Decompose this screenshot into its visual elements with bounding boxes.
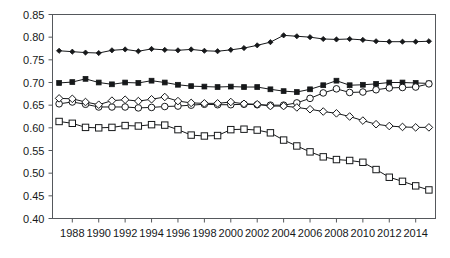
data-point-marker [360,159,366,165]
data-point-marker [281,89,286,94]
data-point-marker [123,80,128,85]
data-point-marker [56,118,62,124]
data-point-marker [123,47,128,52]
y-axis-tick-marks [49,15,53,219]
data-point-marker [307,95,314,102]
data-point-marker [162,80,167,85]
data-point-marker [399,178,405,184]
data-point-marker [386,85,393,92]
data-point-marker [307,35,312,40]
data-point-marker [346,89,353,96]
data-point-marker [347,36,352,41]
data-point-marker [228,126,234,132]
data-point-marker [57,48,62,53]
y-tick-label: 0.80 [23,31,44,43]
data-point-marker [412,84,419,91]
data-point-marker [346,113,354,121]
data-point-marker [280,137,286,143]
data-point-marker [161,93,169,101]
data-point-marker [135,97,143,105]
data-point-marker [359,117,367,125]
data-point-marker [307,149,313,155]
series-open-square [56,118,432,193]
y-tick-label: 0.50 [23,167,44,179]
data-point-marker [399,84,406,91]
data-point-marker [319,108,327,116]
data-point-marker [346,157,352,163]
y-tick-label: 0.45 [23,190,44,202]
data-point-marker [148,104,155,111]
y-tick-label: 0.85 [23,9,44,21]
data-point-marker [149,46,154,51]
data-point-marker [83,50,88,55]
x-tick-label: 2000 [219,227,243,239]
data-point-marker [374,81,379,86]
x-tick-label: 1988 [60,227,84,239]
x-tick-label: 1994 [139,227,163,239]
data-point-marker [176,82,181,87]
data-point-marker [333,110,341,118]
y-tick-label: 0.40 [23,213,44,225]
data-point-marker [108,97,116,105]
x-tick-label: 1996 [166,227,190,239]
data-point-marker [281,33,286,38]
data-point-marker [373,39,378,44]
data-point-marker [136,49,141,54]
data-point-marker [175,48,180,53]
x-tick-label: 2008 [324,227,348,239]
data-point-marker [333,86,340,93]
data-point-marker [321,83,326,88]
x-tick-label: 2004 [271,227,295,239]
data-point-marker [110,82,115,87]
data-point-marker [360,37,365,42]
data-point-marker [255,43,260,48]
data-point-marker [426,187,432,193]
data-point-marker [201,133,207,139]
data-point-marker [242,85,247,90]
data-point-marker [122,122,128,128]
y-tick-label: 0.60 [23,122,44,134]
data-point-marker [360,82,365,87]
data-point-marker [255,85,260,90]
data-point-marker [189,84,194,89]
data-point-marker [268,40,273,45]
line-chart: 0.400.450.500.550.600.650.700.750.800.85… [0,0,450,258]
data-point-marker [360,89,367,96]
data-point-marker [149,78,154,83]
x-tick-label: 2010 [351,227,375,239]
x-axis-tick-labels: 1988199019921994199619982000200220042006… [60,227,428,239]
data-point-marker [254,127,260,133]
data-point-marker [215,49,220,54]
x-tick-label: 1992 [113,227,137,239]
data-point-marker [55,95,63,103]
y-tick-label: 0.55 [23,145,44,157]
y-tick-label: 0.75 [23,54,44,66]
data-point-marker [96,125,102,131]
data-point-marker [241,45,246,50]
data-point-marker [70,80,75,85]
x-tick-label: 1990 [86,227,110,239]
data-point-marker [373,166,379,172]
x-tick-label: 1998 [192,227,216,239]
x-tick-label: 2002 [245,227,269,239]
data-point-marker [188,132,194,138]
y-tick-label: 0.65 [23,99,44,111]
x-tick-label: 2006 [298,227,322,239]
data-point-marker [334,78,339,83]
data-point-marker [426,81,433,88]
data-point-marker [241,126,247,132]
data-point-marker [320,90,327,97]
data-point-marker [109,48,114,53]
data-point-marker [189,47,194,52]
data-point-marker [148,121,154,127]
data-point-marker [306,105,314,113]
data-point-marker [96,50,101,55]
data-point-marker [69,120,75,126]
data-point-marker [294,90,299,95]
data-point-marker [214,132,220,138]
data-point-marker [215,85,220,90]
data-point-marker [83,76,88,81]
data-point-marker [308,87,313,92]
x-axis-tick-marks [72,219,415,223]
x-tick-label: 2014 [403,227,427,239]
